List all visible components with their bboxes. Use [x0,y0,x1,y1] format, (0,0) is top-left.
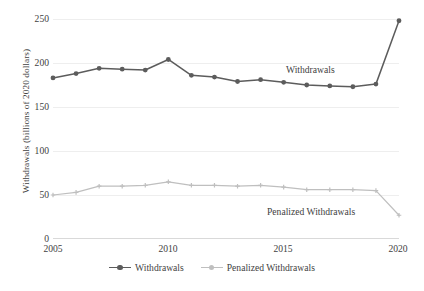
data-point [74,190,79,195]
data-point [304,187,309,192]
data-point [97,184,102,189]
data-point [235,184,240,189]
data-point [143,183,148,188]
data-point [166,57,171,62]
chart-legend: Withdrawals Penalized Withdrawals [0,262,424,273]
data-point [258,183,263,188]
data-point [120,67,125,72]
data-point [74,71,79,76]
data-point [189,183,194,188]
data-point [350,84,355,89]
series-line [53,21,399,87]
y-tick-label: 250 [21,14,49,24]
y-tick-label: 200 [21,58,49,68]
series-withdrawals [51,18,402,89]
x-tick-label: 2005 [30,243,76,254]
data-point [328,187,333,192]
legend-line-marker-icon [201,263,223,272]
data-point [51,76,56,81]
data-point [212,75,217,80]
x-tick-label: 2015 [260,243,306,254]
annotation-penalized-withdrawals: Penalized Withdrawals [267,206,355,217]
data-point [397,18,402,23]
data-point [258,77,263,82]
data-point [327,83,332,88]
y-tick-label: 100 [21,146,49,156]
data-point [143,68,148,73]
x-tick-label: 2010 [145,243,191,254]
x-tick-label: 2020 [375,243,421,254]
data-point [120,184,125,189]
legend-label: Penalized Withdrawals [227,262,315,273]
y-tick-label: 50 [21,190,49,200]
data-point [212,183,217,188]
legend-item-withdrawals[interactable]: Withdrawals [109,262,184,273]
legend-item-penalized-withdrawals[interactable]: Penalized Withdrawals [201,262,315,273]
data-point [304,83,309,88]
data-point [97,66,102,71]
data-point [374,82,379,87]
y-tick-label: 150 [21,102,49,112]
line-chart: Withdrawals (billions of 2020 dollars) 2… [0,0,424,291]
legend-label: Withdrawals [135,262,184,273]
data-point [189,73,194,78]
data-point [235,79,240,84]
data-point [166,180,171,185]
legend-line-marker-icon [109,263,131,272]
data-point [281,80,286,85]
data-point [281,185,286,190]
annotation-withdrawals: Withdrawals [286,64,335,75]
data-point [351,187,356,192]
